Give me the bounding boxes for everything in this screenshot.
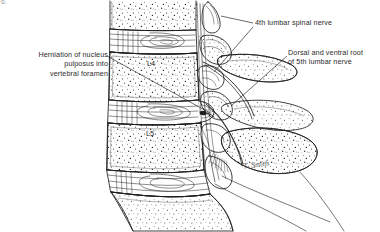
label-dorsal-and-ventral-root-5th-lumbar-nerve: Dorsal and ventral root of 5th lumbar ne… bbox=[288, 48, 380, 67]
l3-vertebral-body bbox=[110, 1, 197, 31]
l4-transverse-process bbox=[217, 54, 297, 82]
leader-l4-nerve-a bbox=[221, 16, 253, 23]
spine-illustration bbox=[0, 0, 380, 232]
l4-l5-facet-joint bbox=[198, 66, 224, 90]
label-4th-lumbar-spinal-nerve: 4th lumbar spinal nerve bbox=[255, 18, 375, 27]
l4-l5-disc-herniated bbox=[108, 100, 214, 125]
l5-s1-disc bbox=[107, 170, 210, 197]
label-herniation-of-nucleus-pulposus: Herniation of nucleus pulposus into vert… bbox=[4, 50, 108, 78]
anatomical-figure: 6. bbox=[0, 0, 380, 232]
l3-spinous-process bbox=[202, 2, 220, 33]
l3-l4-disc bbox=[110, 29, 197, 54]
l5-vertebral-body bbox=[107, 123, 204, 173]
sacrum bbox=[111, 192, 233, 231]
pelvic-outline bbox=[215, 172, 344, 231]
vertebra-label-l5: L5 bbox=[146, 129, 154, 138]
sacral-spinous-crest bbox=[205, 156, 232, 189]
l5-transverse-process bbox=[221, 100, 313, 130]
vertebra-label-l4: L4 bbox=[147, 59, 155, 68]
